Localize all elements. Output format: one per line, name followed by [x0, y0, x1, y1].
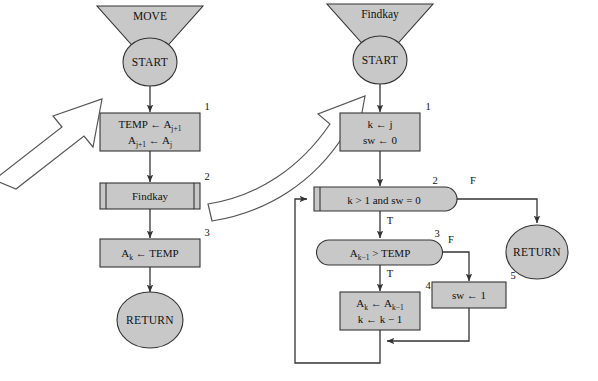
right-step-5: 5 sw ← 1: [432, 270, 516, 308]
right-step-1-line1: k ← j: [367, 118, 392, 130]
right-step-2: 2 k > 1 and sw = 0 F T: [314, 175, 476, 226]
right-step-3-true-flag: T: [387, 268, 394, 279]
left-return-terminal: RETURN: [117, 292, 183, 348]
callout-arrow-into-move: [0, 99, 102, 189]
right-step-3-false-flag: F: [448, 234, 454, 245]
left-step-3-number: 3: [204, 227, 209, 238]
left-step-1-number: 1: [204, 101, 209, 112]
left-step-1: 1 TEMP ← Aj+1 Aj+1 ← Aj: [100, 101, 210, 151]
right-step-3: 3 Ak−1 > TEMP F T: [317, 228, 455, 279]
right-step-2-false-flag: F: [470, 175, 476, 186]
left-title-text: MOVE: [133, 10, 167, 22]
left-start-label: START: [132, 56, 168, 68]
right-connector-3-false-to-5: [442, 252, 469, 281]
flowchart-diagram: MOVE START 1 TEMP ← Aj+1 Aj+1 ← Aj 2: [0, 0, 598, 381]
right-step-2-label: k > 1 and sw = 0: [347, 194, 421, 206]
left-return-label: RETURN: [126, 314, 174, 326]
left-step-2-label: Findkay: [132, 190, 169, 202]
left-step-2-number: 2: [204, 171, 209, 182]
right-step-3-number: 3: [434, 228, 439, 239]
right-flowchart: Findkay START 1 k ← j sw ← 0 2 k > 1 and…: [295, 4, 568, 363]
right-title-text: Findkay: [361, 8, 399, 21]
left-step-3: 3 Ak ← TEMP: [100, 227, 210, 267]
right-step-4-number: 4: [425, 280, 431, 291]
right-connector-loopback-to-2: [295, 199, 380, 363]
right-connector-2-false-to-return: [457, 199, 537, 223]
right-step-1-line2: sw ← 0: [363, 134, 398, 146]
right-start-terminal: START: [353, 36, 407, 84]
right-step-1-number: 1: [425, 101, 430, 112]
left-flowchart: MOVE START 1 TEMP ← Aj+1 Aj+1 ← Aj 2: [97, 6, 210, 348]
right-step-4-line2: k ← k − 1: [358, 313, 403, 325]
right-step-2-number: 2: [432, 175, 437, 186]
right-return-label: RETURN: [513, 246, 561, 258]
right-start-label: START: [362, 54, 398, 66]
right-step-4: 4 Ak ← Ak−1 k ← k − 1: [340, 280, 431, 330]
right-step-2-true-flag: T: [387, 215, 394, 226]
right-step-5-number: 5: [510, 270, 515, 281]
left-start-terminal: START: [123, 38, 177, 86]
right-step-5-label: sw ← 1: [452, 289, 486, 301]
left-step-2: 2 Findkay: [100, 171, 210, 209]
